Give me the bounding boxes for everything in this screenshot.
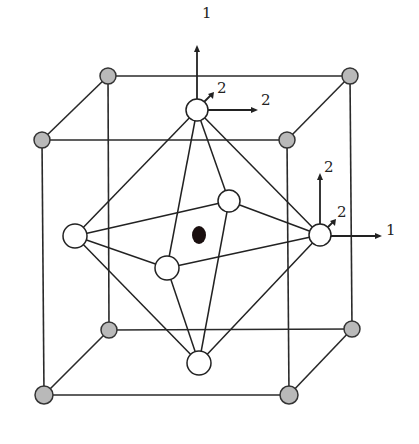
- label-right-diagonal: 2: [337, 203, 347, 221]
- octahedral-site-diagram: 1 2 2 2 2 1: [0, 0, 419, 444]
- label-right-vertical: 2: [324, 158, 334, 176]
- label-top-diagonal: 2: [217, 79, 227, 97]
- top-diagonal-arrow: [204, 95, 211, 102]
- central-interstitial-atom: [192, 226, 206, 244]
- label-top-vertical: 1: [202, 4, 212, 22]
- label-top-horizontal: 2: [261, 91, 271, 109]
- label-right-horizontal: 1: [386, 221, 396, 239]
